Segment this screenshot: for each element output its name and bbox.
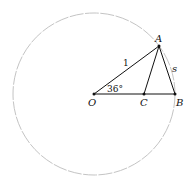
label-B: B <box>175 97 183 108</box>
label-O: O <box>88 97 96 108</box>
label-A: A <box>154 33 162 44</box>
label-OA-length: 1 <box>123 58 129 68</box>
geometry-diagram: A B C O 1 s 36° <box>0 0 194 183</box>
segment-AC <box>144 46 159 94</box>
point-C <box>143 93 146 96</box>
point-O <box>93 93 96 96</box>
segment-OA <box>94 46 159 94</box>
label-AB-length: s <box>172 63 177 74</box>
label-angle-AOB: 36° <box>107 84 123 94</box>
label-C: C <box>140 97 148 108</box>
point-B <box>174 93 177 96</box>
point-A <box>158 45 161 48</box>
